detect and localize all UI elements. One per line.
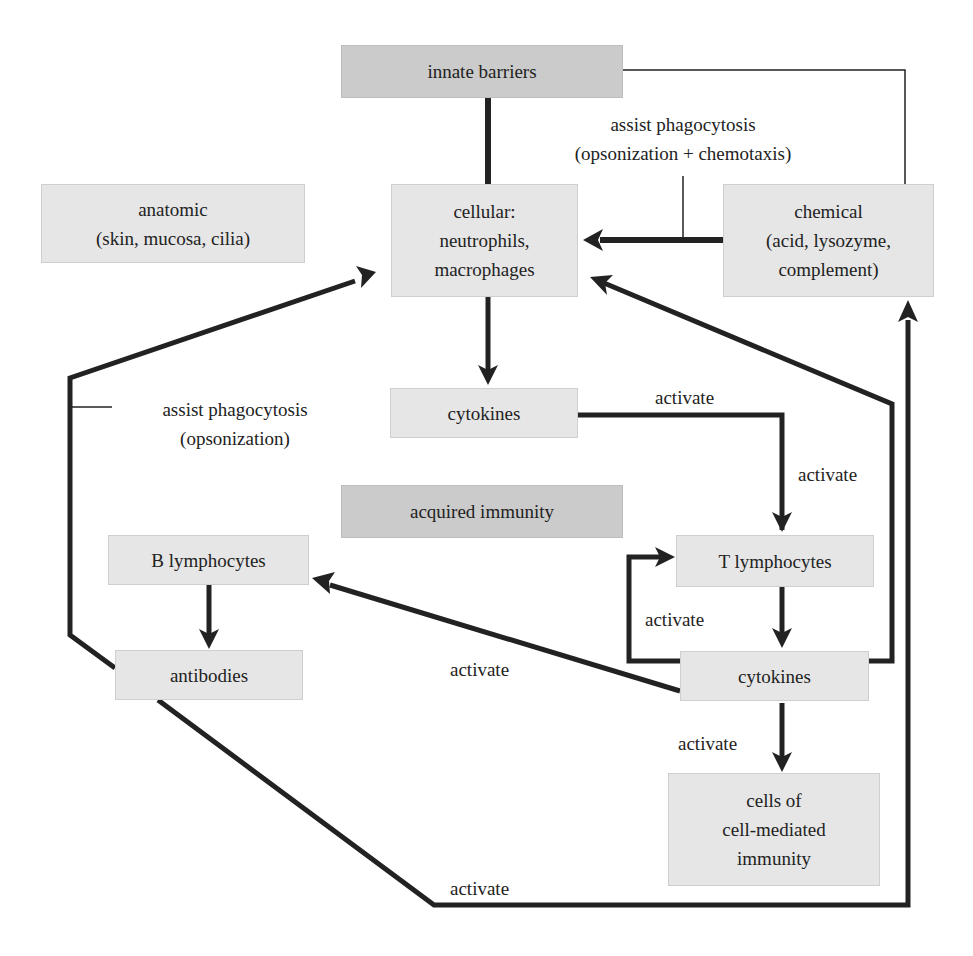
edge-label-assist-chemotaxis: assist phagocytosis (opsonization + chem… [533, 110, 833, 168]
node-t-lymphocytes: T lymphocytes [676, 535, 874, 587]
node-cellular: cellular: neutrophils, macrophages [391, 184, 578, 297]
node-label: chemical [794, 197, 863, 226]
node-label: T lymphocytes [718, 547, 831, 576]
edge-label-line: (opsonization) [130, 424, 340, 453]
node-label: complement) [778, 255, 878, 284]
node-label: innate barriers [427, 57, 536, 86]
node-cell-mediated-immunity: cells of cell-mediated immunity [668, 773, 880, 886]
node-label: acquired immunity [410, 497, 554, 526]
node-label: antibodies [170, 661, 248, 690]
edge-antibodies-to-cellular [70, 281, 355, 668]
node-chemical: chemical (acid, lysozyme, complement) [723, 184, 934, 297]
edge-label-assist-opsonization: assist phagocytosis (opsonization) [130, 395, 340, 453]
arrowhead-icon [898, 300, 918, 322]
edge-label-line: (opsonization + chemotaxis) [533, 139, 833, 168]
node-label: (acid, lysozyme, [766, 226, 891, 255]
node-label: neutrophils, [439, 226, 529, 255]
node-label: B lymphocytes [151, 546, 266, 575]
node-label: cells of [746, 786, 801, 815]
edge-label-line: assist phagocytosis [533, 110, 833, 139]
node-label: cellular: [453, 197, 515, 226]
node-label: cytokines [738, 662, 811, 691]
node-label: immunity [737, 844, 811, 873]
edge-label-activate-1: activate [655, 383, 714, 412]
node-anatomic: anatomic (skin, mucosa, cilia) [41, 184, 305, 263]
edge-label-activate-4: activate [450, 655, 509, 684]
edge-label-activate-6: activate [450, 874, 509, 903]
node-acquired-immunity: acquired immunity [341, 485, 623, 538]
edge-label-activate-3: activate [645, 605, 704, 634]
node-antibodies: antibodies [115, 650, 303, 700]
node-label: macrophages [434, 255, 534, 284]
edge-label-activate-5: activate [678, 729, 737, 758]
node-label: anatomic [138, 195, 208, 224]
node-label: cell-mediated [722, 815, 825, 844]
arrowhead-icon [356, 266, 376, 288]
node-innate-barriers: innate barriers [341, 45, 623, 98]
edge-label-activate-2: activate [798, 460, 857, 489]
node-cytokines-acquired: cytokines [680, 651, 869, 701]
node-cytokines-innate: cytokines [390, 388, 578, 438]
edge-label-line: assist phagocytosis [130, 395, 340, 424]
node-b-lymphocytes: B lymphocytes [108, 535, 309, 585]
node-label: cytokines [448, 399, 521, 428]
node-label: (skin, mucosa, cilia) [96, 224, 250, 253]
